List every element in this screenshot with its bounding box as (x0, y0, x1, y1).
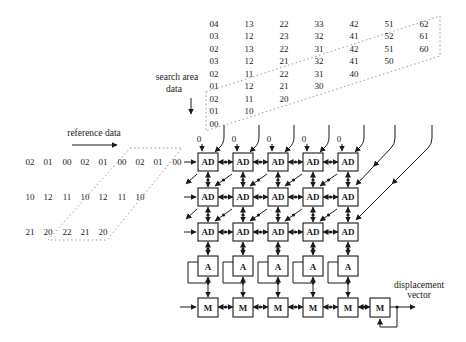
reference-value: 22 (63, 227, 72, 237)
search-value: 04 (210, 19, 220, 29)
search-value: 60 (420, 44, 430, 54)
search-value: 01 (210, 106, 219, 116)
displacement-vector-label-line1: displacement (394, 280, 444, 290)
reference-value: 00 (63, 157, 73, 167)
minimum-row: M M M M M M (180, 298, 415, 327)
ad-cell-label: AD (202, 227, 215, 237)
search-value: 61 (420, 31, 429, 41)
search-value: 03 (210, 56, 220, 66)
reference-value: 02 (26, 157, 35, 167)
accumulator-row: A A A A A (188, 256, 358, 297)
search-value: 02 (210, 94, 219, 104)
ad-cell-label: AD (307, 157, 320, 167)
accumulator-cell-label: A (345, 262, 352, 272)
search-value: 13 (245, 44, 255, 54)
search-area-data-grid: 04 13 22 33 42 51 62 03 12 23 32 41 52 6… (210, 19, 430, 129)
zero-input-label: 0 (232, 134, 237, 144)
accumulator-cell-label: A (275, 262, 282, 272)
reference-value: 20 (99, 227, 109, 237)
reference-value: 11 (63, 192, 72, 202)
search-value: 40 (350, 69, 360, 79)
minimum-cell-label: M (204, 303, 213, 313)
ad-cell-label: AD (272, 227, 285, 237)
search-value: 30 (315, 81, 325, 91)
reference-value: 21 (26, 227, 35, 237)
ad-cell-label: AD (307, 227, 320, 237)
minimum-cell-label: M (309, 303, 318, 313)
reference-value: 11 (118, 192, 127, 202)
ad-to-accumulator-links (208, 242, 348, 255)
search-value: 51 (385, 44, 394, 54)
displacement-vector-label-line2: vector (407, 290, 432, 300)
search-value: 02 (210, 69, 219, 79)
reference-value: 20 (44, 227, 54, 237)
minimum-cell-label: M (239, 303, 248, 313)
reference-value: 01 (154, 157, 163, 167)
search-value: 20 (280, 94, 290, 104)
ad-cell-label: AD (342, 227, 355, 237)
reference-value: 02 (81, 157, 90, 167)
search-value: 51 (385, 19, 394, 29)
reference-value: 10 (136, 192, 146, 202)
ad-cell-label: AD (237, 157, 250, 167)
reference-value: 12 (99, 192, 108, 202)
search-value: 42 (350, 44, 359, 54)
search-value: 22 (280, 69, 289, 79)
minimum-cell-label: M (344, 303, 353, 313)
ad-cell-label: AD (342, 157, 355, 167)
reference-value: 10 (26, 192, 36, 202)
search-value: 32 (315, 56, 324, 66)
reference-data-label: reference data (67, 128, 121, 138)
search-value: 10 (245, 106, 255, 116)
search-value: 12 (245, 81, 254, 91)
search-value: 42 (350, 19, 359, 29)
ad-cell-label: AD (272, 157, 285, 167)
ad-cell-label: AD (202, 192, 215, 202)
annotations: search area data reference data displace… (67, 72, 444, 300)
reference-value: 00 (173, 157, 183, 167)
search-value: 22 (280, 44, 289, 54)
zero-input-label: 0 (302, 134, 307, 144)
ad-cell-label: AD (237, 227, 250, 237)
search-value: 62 (420, 19, 429, 29)
zero-input-label: 0 (337, 134, 342, 144)
reference-value: 00 (118, 157, 128, 167)
accumulator-cell-label: A (205, 262, 212, 272)
diagram-canvas: 04 13 22 33 42 51 62 03 12 23 32 41 52 6… (0, 0, 466, 342)
systolic-array-diagram: 04 13 22 33 42 51 62 03 12 23 32 41 52 6… (0, 0, 466, 342)
search-value: 23 (280, 31, 290, 41)
reference-data-grid: 02 01 00 02 01 00 02 01 00 10 12 11 10 1… (26, 157, 183, 237)
search-value: 50 (385, 56, 395, 66)
search-value: 11 (245, 69, 254, 79)
search-value: 41 (350, 31, 359, 41)
reference-value: 10 (81, 192, 91, 202)
search-value: 31 (315, 69, 324, 79)
reference-value: 02 (136, 157, 145, 167)
reference-value: 12 (44, 192, 53, 202)
ad-cell-label: AD (342, 192, 355, 202)
search-value: 01 (210, 81, 219, 91)
search-value: 12 (245, 56, 254, 66)
zero-input-label: 0 (267, 134, 272, 144)
search-value: 02 (210, 44, 219, 54)
minimum-cell-label: M (274, 303, 283, 313)
ad-cell-label: AD (272, 192, 285, 202)
ad-cell-label: AD (237, 192, 250, 202)
accumulator-cell-label: A (240, 262, 247, 272)
reference-value: 21 (81, 227, 90, 237)
search-value: 00 (210, 119, 220, 129)
ad-cell-label: AD (202, 157, 215, 167)
search-value: 41 (350, 56, 359, 66)
search-value: 33 (315, 19, 325, 29)
search-value: 12 (245, 31, 254, 41)
zero-input-label: 0 (197, 134, 202, 144)
reference-value: 01 (99, 157, 108, 167)
search-area-label-line1: search area (156, 72, 199, 82)
search-value: 21 (280, 81, 289, 91)
search-value: 22 (280, 19, 289, 29)
reference-value: 01 (44, 157, 53, 167)
reference-input-arrows (184, 162, 196, 232)
search-value: 03 (210, 31, 220, 41)
accumulator-cell-label: A (310, 262, 317, 272)
search-value: 52 (385, 31, 394, 41)
